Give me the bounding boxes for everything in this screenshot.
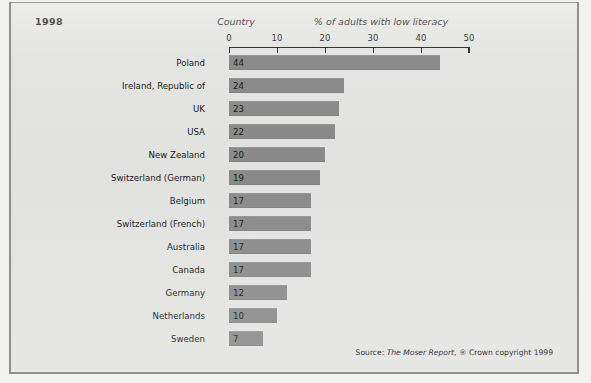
bar-category-label: Sweden	[171, 334, 205, 344]
bar-category-label: Australia	[167, 242, 205, 252]
bar-value-label: 17	[233, 219, 244, 229]
x-axis-tick-label: 0	[226, 33, 231, 43]
x-axis-tick	[325, 47, 326, 53]
bar-value-label: 23	[233, 104, 244, 114]
percent-axis-title: % of adults with low literacy	[286, 16, 476, 27]
bar-row: New Zealand20	[11, 146, 581, 169]
bar-row: Switzerland (French)17	[11, 215, 581, 238]
bar-row: Ireland, Republic of24	[11, 77, 581, 100]
bar-row: Belgium17	[11, 192, 581, 215]
bar-row: Switzerland (German)19	[11, 169, 581, 192]
bar-category-label: New Zealand	[149, 150, 205, 160]
x-axis-tick	[421, 47, 422, 53]
bar-category-label: Germany	[166, 288, 206, 298]
bar-value-label: 44	[233, 58, 244, 68]
year-label: 1998	[35, 16, 63, 27]
bar	[229, 55, 440, 70]
source-suffix: , ® Crown copyright 1999	[454, 348, 553, 357]
bar-row: Australia17	[11, 238, 581, 261]
chart-plate: 1998 Country % of adults with low litera…	[9, 2, 579, 374]
bar-category-label: Ireland, Republic of	[122, 81, 205, 91]
source-note: Source: The Moser Report, ® Crown copyri…	[356, 348, 553, 357]
bar-value-label: 17	[233, 242, 244, 252]
bar-value-label: 19	[233, 173, 244, 183]
bar-category-label: USA	[187, 127, 205, 137]
source-title: The Moser Report	[387, 348, 454, 357]
bar-value-label: 22	[233, 127, 244, 137]
bar-row: Netherlands10	[11, 307, 581, 330]
x-axis-tick-label: 20	[320, 33, 331, 43]
bar-category-label: Poland	[176, 58, 205, 68]
x-axis-tick	[277, 47, 278, 53]
country-column-header: Country	[181, 16, 291, 27]
bar-category-label: Switzerland (German)	[111, 173, 205, 183]
bar	[229, 101, 339, 116]
x-axis-tick-label: 10	[272, 33, 283, 43]
figure-container: 1998 Country % of adults with low litera…	[0, 0, 591, 383]
bar-value-label: 17	[233, 196, 244, 206]
bar-value-label: 12	[233, 288, 244, 298]
bar-category-label: Switzerland (French)	[117, 219, 205, 229]
bar-category-label: UK	[193, 104, 205, 114]
bar-value-label: 24	[233, 81, 244, 91]
bar-category-label: Canada	[172, 265, 205, 275]
bar-value-label: 10	[233, 311, 244, 321]
x-axis: 01020304050	[229, 47, 469, 48]
bar-row: UK23	[11, 100, 581, 123]
x-axis-tick	[229, 47, 230, 53]
bar-row: USA22	[11, 123, 581, 146]
bar-category-label: Netherlands	[153, 311, 205, 321]
bar	[229, 78, 344, 93]
source-prefix: Source:	[356, 348, 387, 357]
x-axis-tick	[373, 47, 374, 53]
bar-category-label: Belgium	[170, 196, 205, 206]
bar-value-label: 20	[233, 150, 244, 160]
bar-row: Germany12	[11, 284, 581, 307]
x-axis-tick-label: 30	[368, 33, 379, 43]
x-axis-tick	[469, 47, 470, 53]
bar-rows: Poland44Ireland, Republic of24UK23USA22N…	[11, 54, 581, 353]
bar-value-label: 17	[233, 265, 244, 275]
bar	[229, 124, 335, 139]
bar-row: Canada17	[11, 261, 581, 284]
x-axis-tick-label: 40	[416, 33, 427, 43]
bar-value-label: 7	[233, 334, 238, 344]
x-axis-tick-label: 50	[464, 33, 475, 43]
bar-row: Poland44	[11, 54, 581, 77]
